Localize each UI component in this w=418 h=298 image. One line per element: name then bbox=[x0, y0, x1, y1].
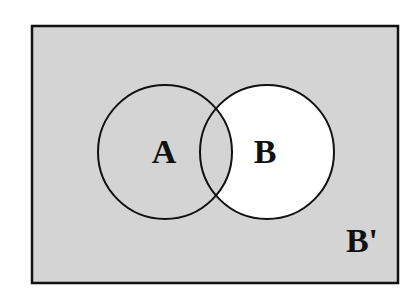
set-b-label: B bbox=[254, 133, 277, 170]
venn-diagram: A B B' bbox=[0, 0, 418, 298]
set-a-label: A bbox=[152, 133, 177, 170]
complement-label: B' bbox=[346, 222, 378, 259]
